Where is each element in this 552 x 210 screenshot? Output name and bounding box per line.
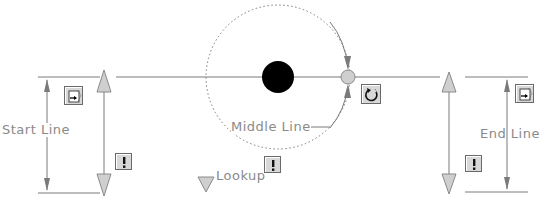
lookup-label: Lookup: [216, 169, 266, 183]
stretch-grip-icon: [65, 87, 84, 106]
start-warning-button[interactable]: [115, 153, 132, 170]
exclamation-icon: [466, 156, 483, 173]
lookup-grip: [198, 177, 214, 192]
start-line-label: Start Line: [2, 123, 70, 137]
start-stretch-button[interactable]: [64, 86, 83, 105]
rotate-button[interactable]: [361, 84, 381, 104]
rotation-grip: [341, 70, 355, 84]
lookup-warning-button[interactable]: [264, 156, 281, 173]
end-line-label: End Line: [480, 127, 540, 141]
end-warning-button[interactable]: [465, 155, 482, 172]
end-stretch-button[interactable]: [515, 84, 534, 103]
stretch-grip-icon: [516, 85, 535, 104]
center-point: [262, 61, 294, 93]
middle-line-label: Middle Line: [231, 120, 311, 134]
dynamic-block-diagram: Start Line Middle Line End Line Lookup: [0, 0, 552, 210]
exclamation-icon: [265, 157, 282, 174]
exclamation-icon: [116, 154, 133, 171]
rotate-icon: [362, 85, 382, 105]
